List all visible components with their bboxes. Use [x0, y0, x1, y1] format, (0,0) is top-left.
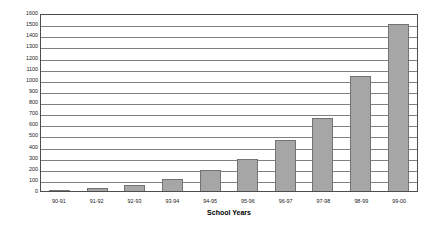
y-axis-tick-label: 200	[8, 167, 38, 172]
x-axis-tick-label: 98-99	[342, 195, 380, 207]
y-axis-tick-label: 1100	[8, 67, 38, 72]
y-axis-tick-label: 0	[8, 189, 38, 194]
x-axis-tick-label: 95-96	[229, 195, 267, 207]
y-axis-tick-label: 1600	[8, 11, 38, 16]
bar-slot	[267, 15, 305, 191]
bar[interactable]	[49, 190, 70, 192]
bar[interactable]	[237, 159, 258, 191]
x-axis-tick-label: 99-00	[380, 195, 418, 207]
bar-slot	[304, 15, 342, 191]
x-axis-tick-label: 91-92	[78, 195, 116, 207]
x-axis-tick-label: 97-98	[305, 195, 343, 207]
bars-layer	[41, 15, 417, 191]
bar[interactable]	[388, 24, 409, 191]
y-axis-tick-label: 1300	[8, 45, 38, 50]
y-axis-tick-label: 100	[8, 178, 38, 183]
y-axis-tick-label: 400	[8, 145, 38, 150]
x-axis-tick-label: 94-95	[191, 195, 229, 207]
plot-area	[40, 14, 418, 192]
y-axis-tick-label: 500	[8, 134, 38, 139]
bar-slot	[154, 15, 192, 191]
bar-slot	[116, 15, 154, 191]
y-axis-tick-label: 1000	[8, 78, 38, 83]
x-axis-tick-label: 96-97	[267, 195, 305, 207]
y-axis-tick-label: 700	[8, 111, 38, 116]
y-axis-tick-label: 900	[8, 89, 38, 94]
bar[interactable]	[275, 140, 296, 191]
bar[interactable]	[124, 185, 145, 191]
x-axis: 90-9191-9292-9393-9494-9595-9696-9797-98…	[40, 195, 418, 207]
y-axis-tick-label: 1500	[8, 22, 38, 27]
bar-slot	[229, 15, 267, 191]
y-axis: 0100200300400500600700800900100011001200…	[8, 14, 38, 192]
bar[interactable]	[200, 170, 221, 191]
bar[interactable]	[312, 118, 333, 191]
y-axis-tick-label: 1200	[8, 56, 38, 61]
bar[interactable]	[87, 188, 108, 191]
y-axis-tick-label: 1400	[8, 34, 38, 39]
bar-chart: 0100200300400500600700800900100011001200…	[0, 0, 440, 241]
bar[interactable]	[162, 179, 183, 191]
bar-slot	[41, 15, 79, 191]
y-axis-tick-label: 800	[8, 100, 38, 105]
bar[interactable]	[350, 76, 371, 191]
x-axis-tick-label: 93-94	[153, 195, 191, 207]
y-axis-tick-label: 300	[8, 156, 38, 161]
y-axis-tick-label: 600	[8, 123, 38, 128]
x-axis-title: School Years	[40, 209, 418, 216]
x-axis-tick-label: 92-93	[116, 195, 154, 207]
bar-slot	[342, 15, 380, 191]
x-axis-tick-label: 90-91	[40, 195, 78, 207]
bar-slot	[79, 15, 117, 191]
bar-slot	[379, 15, 417, 191]
bar-slot	[191, 15, 229, 191]
